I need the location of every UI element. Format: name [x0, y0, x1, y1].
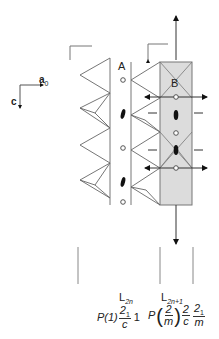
axis-indicator — [20, 85, 43, 108]
symbol-prefix: P — [148, 310, 155, 321]
site-B-label: B — [171, 78, 178, 89]
glide-plane-right-icon — [148, 44, 168, 60]
layer-L2n1-symbol: P ( 2 m ) 2 c 21 m — [148, 303, 205, 328]
axis-a-subscript: 0 — [45, 80, 49, 87]
site-A-label: A — [118, 61, 125, 72]
symbol-prefix: P(1) — [97, 312, 118, 323]
layer-boundaries — [78, 247, 193, 284]
symbol-suffix: 1 — [134, 312, 140, 323]
fraction: 21 c — [119, 305, 131, 330]
fraction: 21 m — [193, 303, 205, 328]
left-tetrahedra-column — [80, 58, 110, 205]
axis-a-label: a0 — [39, 75, 48, 87]
layer-L2n-symbol: P(1) 21 c 1 — [97, 305, 140, 330]
glide-plane-left-icon — [70, 46, 92, 60]
frac-den: m — [164, 316, 173, 327]
frac-den: m — [194, 317, 203, 328]
frac-num-sub: 1 — [126, 311, 130, 318]
right-tetrahedra-column — [131, 62, 160, 205]
fraction: 2 c — [182, 304, 190, 327]
frac-den: c — [183, 316, 189, 327]
fraction: 2 m — [164, 304, 173, 327]
layer-symmetry-diagram — [0, 0, 219, 339]
paren-close: ) — [174, 306, 181, 326]
axis-c-label: c — [11, 97, 17, 107]
frac-den: c — [122, 319, 128, 330]
frac-num-sub: 1 — [200, 309, 204, 316]
paren-open: ( — [156, 306, 163, 326]
